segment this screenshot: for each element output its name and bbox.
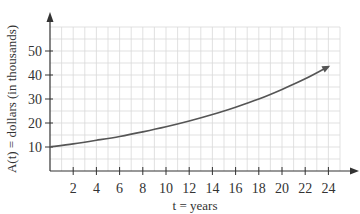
y-tick-label: 30 bbox=[28, 92, 42, 107]
y-ticks: 1020304050 bbox=[28, 44, 53, 155]
x-tick-label: 4 bbox=[93, 181, 100, 196]
y-tick-label: 10 bbox=[28, 140, 42, 155]
x-axis-arrow-icon bbox=[350, 168, 359, 175]
y-tick-label: 40 bbox=[28, 68, 42, 83]
grid bbox=[50, 27, 340, 171]
chart: 24681012141618202224 1020304050 t = year… bbox=[0, 0, 360, 214]
x-tick-label: 12 bbox=[182, 181, 196, 196]
x-tick-label: 6 bbox=[116, 181, 123, 196]
x-tick-label: 22 bbox=[298, 181, 312, 196]
x-tick-label: 10 bbox=[159, 181, 173, 196]
y-axis-title: A(t) = dollars (in thousands) bbox=[4, 25, 19, 173]
y-tick-label: 20 bbox=[28, 116, 42, 131]
x-tick-label: 24 bbox=[321, 181, 335, 196]
x-tick-label: 20 bbox=[275, 181, 289, 196]
x-tick-label: 8 bbox=[139, 181, 146, 196]
x-tick-label: 14 bbox=[205, 181, 219, 196]
axes bbox=[47, 12, 360, 175]
x-tick-label: 2 bbox=[70, 181, 77, 196]
x-axis-title: t = years bbox=[173, 198, 218, 213]
y-axis-arrow-icon bbox=[47, 12, 54, 22]
y-tick-label: 50 bbox=[28, 44, 42, 59]
x-tick-label: 16 bbox=[229, 181, 243, 196]
x-tick-label: 18 bbox=[252, 181, 266, 196]
